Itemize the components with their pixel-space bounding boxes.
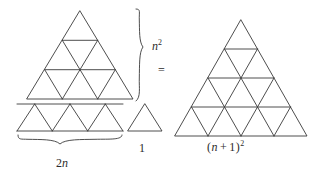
strip-zig-4	[70, 104, 88, 131]
two-n-strip	[17, 104, 123, 131]
result-right-lean-1	[225, 49, 275, 136]
strip-zig-5	[88, 104, 106, 131]
equals-sign: =	[158, 64, 165, 76]
strip-zig-6	[105, 104, 123, 131]
label-one: 1	[139, 142, 145, 154]
unit-triangle	[128, 104, 162, 131]
label-n-squared: n2	[152, 40, 162, 52]
figure-canvas	[0, 0, 323, 178]
label-n-plus-one-squared: (n+1)2	[207, 141, 245, 153]
math-figure: n2 = 2n 1 (n+1)2	[0, 0, 323, 178]
two-n-brace	[18, 135, 122, 144]
result-left-lean-1	[208, 49, 258, 136]
left-lean-line-2	[98, 70, 116, 99]
label-two-n: 2n	[56, 157, 68, 169]
two-n-variable-glyph: n	[62, 156, 68, 170]
strip-zig-1	[17, 104, 35, 131]
n-squared-triangle	[27, 11, 133, 99]
right-lean-line-2	[45, 70, 63, 99]
brace-curve-vertical	[136, 9, 143, 101]
n-exponent-glyph: 2	[158, 38, 162, 47]
result-left-lean-3	[274, 107, 291, 136]
np1-variable-glyph: n	[212, 140, 219, 154]
np1-exponent-glyph: 2	[240, 139, 244, 148]
unit-triangle-outline	[128, 104, 162, 131]
strip-zig-3	[52, 104, 70, 131]
result-right-lean-3	[192, 107, 209, 136]
n-plus-one-squared-triangle	[175, 20, 307, 136]
triangle-outline	[27, 11, 133, 99]
n-squared-brace	[136, 9, 143, 101]
strip-zig-2	[35, 104, 53, 131]
plus-sign-glyph: +	[220, 140, 227, 154]
brace-curve-horizontal	[18, 135, 122, 144]
